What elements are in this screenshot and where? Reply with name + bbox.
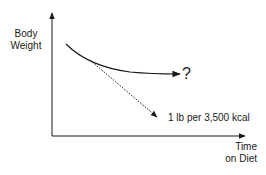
y-axis-label: Body Weight xyxy=(4,28,48,52)
y-axis-label-line1: Body xyxy=(4,28,48,40)
actual-curve-question-mark: ? xyxy=(182,65,191,83)
x-axis-label: Time on Diet xyxy=(210,141,257,165)
predicted-weight-line xyxy=(90,60,157,117)
x-axis-label-line1: Time xyxy=(210,141,257,153)
predicted-line-label: 1 lb per 3,500 kcal xyxy=(168,112,250,124)
y-axis-label-line2: Weight xyxy=(4,40,48,52)
actual-weight-curve xyxy=(66,44,180,74)
x-axis-label-line2: on Diet xyxy=(210,153,257,165)
